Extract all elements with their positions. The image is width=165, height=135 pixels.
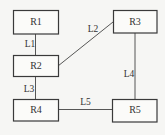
link-label-l4: L4 [124, 69, 135, 79]
node-r3: R3 [114, 11, 158, 34]
link-label-l5: L5 [80, 97, 91, 107]
node-label-r5: R5 [129, 104, 141, 115]
node-label-r4: R4 [30, 104, 42, 115]
node-label-r1: R1 [30, 16, 42, 27]
link-label-l2: L2 [88, 24, 99, 34]
node-r1: R1 [14, 11, 59, 35]
node-r2: R2 [14, 56, 59, 77]
link-label-l3: L3 [24, 84, 35, 94]
node-label-r3: R3 [129, 16, 141, 27]
node-r4: R4 [14, 100, 59, 122]
node-label-r2: R2 [30, 60, 42, 71]
link-l2 [58, 22, 113, 66]
network-topology-diagram: L1 L2 L3 L4 L5 R1 R2 R3 R4 R5 [0, 0, 165, 135]
link-label-l1: L1 [25, 39, 36, 49]
node-r5: R5 [113, 100, 158, 123]
